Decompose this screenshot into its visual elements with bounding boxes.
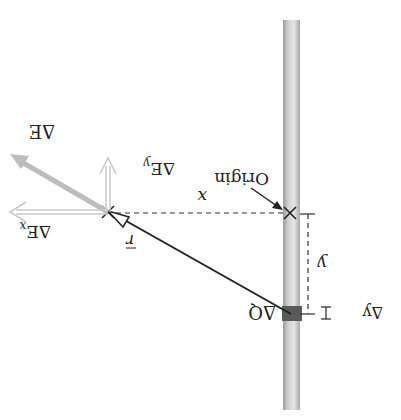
delta-ey-label: ΔEy	[143, 156, 175, 179]
y-label: y	[317, 254, 328, 274]
delta-y-label: Δy	[362, 303, 383, 322]
origin-pointer-arrow	[251, 188, 283, 210]
y-distance-marker	[300, 214, 315, 314]
r-label: r	[125, 231, 134, 250]
origin-label: Origin	[214, 169, 269, 189]
delta-q-label: ΔQ	[248, 302, 276, 323]
delta-ey-vector	[100, 158, 116, 212]
delta-e-label: ΔE	[29, 121, 55, 142]
x-label: x	[197, 187, 207, 207]
charge-element-delta-q	[282, 306, 302, 321]
electric-field-diagram: Origin x y Δy ΔQ r ΔE	[0, 0, 401, 420]
delta-ex-label: ΔEx	[19, 219, 51, 242]
delta-y-bracket	[321, 307, 331, 319]
r-vector	[108, 211, 291, 314]
